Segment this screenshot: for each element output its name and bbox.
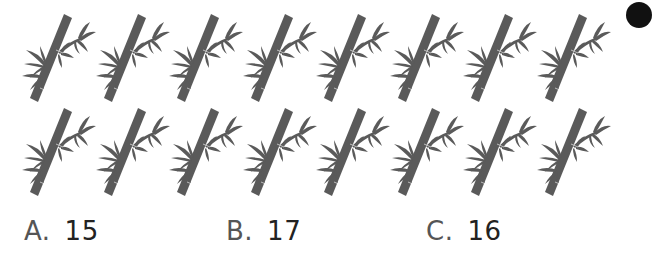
option-b[interactable]: B.17 xyxy=(226,216,301,246)
option-a-letter: A. xyxy=(24,216,51,246)
option-c[interactable]: C.16 xyxy=(426,216,502,246)
bamboo-icon xyxy=(239,106,319,198)
bamboo-icon xyxy=(92,106,172,198)
bamboo-icon xyxy=(165,106,245,198)
option-a-value: 15 xyxy=(65,216,99,246)
bamboo-icon xyxy=(312,12,392,104)
bamboo-icon xyxy=(533,106,613,198)
answer-options: A.15 B.17 C.16 xyxy=(0,216,638,256)
bamboo-icon xyxy=(533,12,613,104)
bamboo-icon xyxy=(92,12,172,104)
bamboo-row-2 xyxy=(0,106,638,198)
option-a[interactable]: A.15 xyxy=(24,216,99,246)
option-b-letter: B. xyxy=(226,216,253,246)
bamboo-icon xyxy=(386,12,466,104)
bamboo-row-1 xyxy=(0,12,638,104)
bamboo-icon xyxy=(165,12,245,104)
option-c-value: 16 xyxy=(467,216,501,246)
option-c-letter: C. xyxy=(426,216,453,246)
bamboo-icon xyxy=(459,12,539,104)
bamboo-icon xyxy=(18,106,98,198)
bamboo-icon xyxy=(239,12,319,104)
option-b-value: 17 xyxy=(267,216,301,246)
bamboo-icon xyxy=(386,106,466,198)
bamboo-icon xyxy=(459,106,539,198)
bamboo-icon xyxy=(18,12,98,104)
bamboo-icon xyxy=(312,106,392,198)
